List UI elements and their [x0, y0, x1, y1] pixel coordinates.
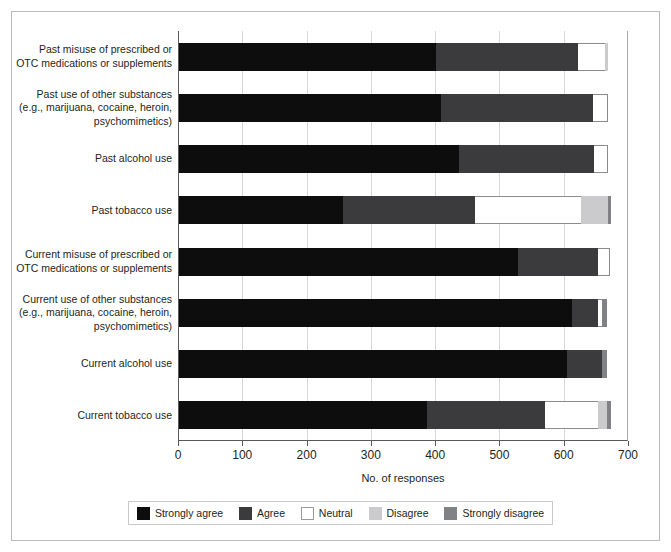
category-label-3: Past tobacco use — [14, 185, 172, 236]
category-label-5: Current use of other substances(e.g., ma… — [14, 287, 172, 338]
legend-label: Strongly disagree — [462, 507, 544, 519]
swatch-strongly-disagree-icon — [444, 507, 457, 520]
swatch-strongly-agree-icon — [137, 507, 150, 520]
legend-label: Strongly agree — [155, 507, 223, 519]
legend-label: Agree — [257, 507, 285, 519]
legend-label: Neutral — [319, 507, 353, 519]
swatch-disagree-icon — [369, 507, 382, 520]
figure-container: Past misuse of prescribed orOTC medicati… — [0, 0, 671, 552]
plot-frame — [178, 31, 628, 441]
category-label-0: Past misuse of prescribed orOTC medicati… — [14, 31, 172, 82]
chart-legend: Strongly agreeAgreeNeutralDisagreeStrong… — [128, 501, 553, 525]
plot-area — [178, 31, 628, 441]
category-label-1: Past use of other substances(e.g., marij… — [14, 82, 172, 133]
legend-item-neutral[interactable]: Neutral — [301, 507, 353, 520]
legend-item-disagree[interactable]: Disagree — [369, 507, 429, 520]
category-label-4: Current misuse of prescribed orOTC medic… — [14, 236, 172, 287]
swatch-agree-icon — [239, 507, 252, 520]
category-label-6: Current alcohol use — [14, 339, 172, 390]
legend-label: Disagree — [387, 507, 429, 519]
legend-item-agree[interactable]: Agree — [239, 507, 285, 520]
category-axis-labels: Past misuse of prescribed orOTC medicati… — [14, 31, 172, 441]
category-label-2: Past alcohol use — [14, 134, 172, 185]
swatch-neutral-icon — [301, 507, 314, 520]
legend-item-strongly-agree[interactable]: Strongly agree — [137, 507, 223, 520]
category-label-7: Current tobacco use — [14, 390, 172, 441]
legend-item-strongly-disagree[interactable]: Strongly disagree — [444, 507, 544, 520]
